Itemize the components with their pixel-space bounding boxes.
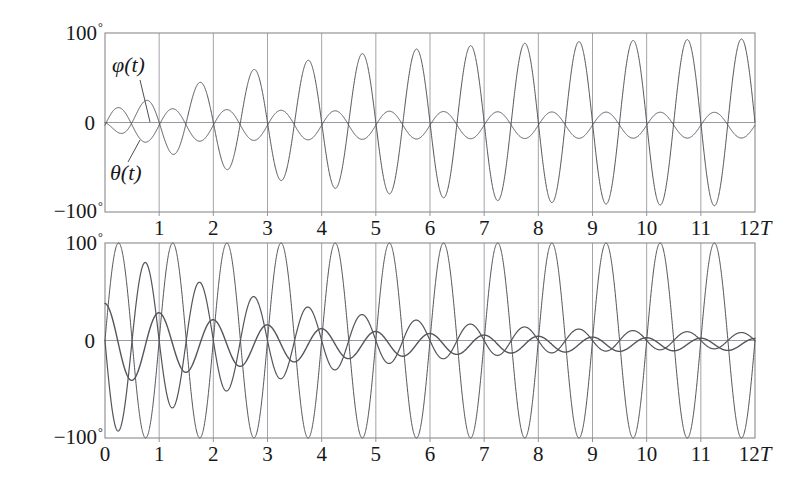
x-tick-label-2: 2	[208, 442, 219, 466]
x-tick-label-1: 1	[154, 442, 165, 466]
y-tick-degree-top: °	[98, 20, 103, 34]
top-chart-panel: 100°0−100°123456789101112T	[54, 20, 773, 240]
x-tick-label-7: 7	[479, 442, 490, 466]
y-tick-label-top: 100	[66, 231, 98, 255]
x-tick-label-final: 12T	[739, 216, 773, 240]
x-tick-label-8: 8	[533, 216, 544, 240]
bottom-chart-panel: 100°0−100°0123456789101112T	[54, 230, 773, 466]
theta-curve-label: θ(t)	[110, 160, 142, 185]
figure-container: 100°0−100°123456789101112T 100°0−100°012…	[0, 0, 811, 488]
x-tick-label-final: 12T	[739, 442, 773, 466]
x-tick-label-4: 4	[316, 442, 327, 466]
x-tick-label-10: 10	[636, 442, 657, 466]
theta-leader-line	[128, 140, 140, 162]
x-tick-label-10: 10	[636, 216, 657, 240]
x-tick-label-9: 9	[587, 442, 598, 466]
y-tick-label-bottom: −100	[54, 425, 97, 449]
phi-curve-label: φ(t)	[112, 52, 145, 77]
x-tick-label-6: 6	[425, 442, 436, 466]
x-tick-label-0: 0	[100, 442, 111, 466]
x-tick-label-9: 9	[587, 216, 598, 240]
x-tick-label-11: 11	[691, 442, 711, 466]
x-tick-label-8: 8	[533, 442, 544, 466]
y-tick-label-bottom: −100	[54, 199, 97, 223]
annotation-layer: φ(t)θ(t)	[110, 52, 150, 185]
x-tick-label-7: 7	[479, 216, 490, 240]
y-tick-label-top: 100	[66, 21, 98, 45]
x-tick-label-3: 3	[262, 442, 273, 466]
y-tick-degree-top: °	[98, 230, 103, 244]
y-tick-label-zero: 0	[85, 329, 96, 353]
oscillation-figure: 100°0−100°123456789101112T 100°0−100°012…	[0, 0, 811, 488]
y-tick-degree-bottom: °	[98, 199, 103, 213]
x-tick-label-4: 4	[316, 216, 327, 240]
x-tick-label-2: 2	[208, 216, 219, 240]
y-tick-degree-bottom: °	[98, 425, 103, 439]
x-tick-label-1: 1	[154, 216, 165, 240]
y-tick-label-zero: 0	[85, 111, 96, 135]
x-tick-label-3: 3	[262, 216, 273, 240]
x-tick-label-6: 6	[425, 216, 436, 240]
x-tick-label-5: 5	[371, 216, 382, 240]
x-tick-label-11: 11	[691, 216, 711, 240]
x-tick-label-5: 5	[371, 442, 382, 466]
